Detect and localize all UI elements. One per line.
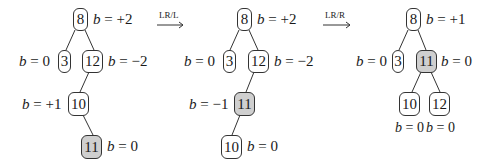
tree3-balance-10: b = 0: [395, 119, 424, 137]
tree3-node-12: 12: [429, 92, 450, 116]
tree2-node-11: 11: [234, 92, 255, 116]
tree3-balance-8: b = +1: [426, 10, 465, 28]
tree1-balance-10: b = +1: [22, 95, 61, 113]
tree1-node-8: 8: [73, 8, 88, 31]
tree3-node-3: 3: [392, 50, 404, 73]
tree1-node-11: 11: [81, 135, 102, 159]
tree2-node-8: 8: [237, 8, 252, 31]
tree3-balance-11: b = 0: [441, 52, 472, 70]
arrow-label-lr-r: LR/R: [325, 10, 345, 20]
edge-10-11: [83, 115, 93, 135]
tree3-balance-3: b = 0: [356, 52, 387, 70]
tree1-balance-12: b = −2: [108, 52, 147, 70]
arrow-label-lr-l: LR/L: [159, 10, 179, 20]
tree3-node-11: 11: [416, 50, 437, 73]
tree1-balance-8: b = +2: [93, 10, 132, 28]
edge-8-3: [66, 30, 75, 50]
tree1-node-3: 3: [58, 50, 71, 73]
tree2-balance-11: b = −1: [189, 95, 228, 113]
tree2-node-10: 10: [221, 135, 242, 159]
edge-8-12: [85, 30, 94, 50]
tree2-node-12: 12: [248, 50, 269, 73]
tree1-node-12: 12: [82, 50, 103, 73]
tree2-balance-3: b = 0: [184, 52, 215, 70]
tree2-balance-12: b = −2: [274, 52, 313, 70]
tree3-node-10: 10: [399, 92, 420, 116]
edge-12-10: [80, 72, 89, 92]
tree1-balance-11: b = 0: [107, 137, 138, 155]
tree3-balance-12: b = 0: [426, 119, 455, 137]
tree2-node-3: 3: [223, 50, 236, 73]
tree1-balance-3: b = 0: [19, 52, 50, 70]
tree2-balance-10: b = 0: [247, 137, 278, 155]
tree1-node-10: 10: [68, 92, 89, 116]
tree3-node-8: 8: [406, 8, 421, 31]
tree2-balance-8: b = +2: [257, 10, 296, 28]
